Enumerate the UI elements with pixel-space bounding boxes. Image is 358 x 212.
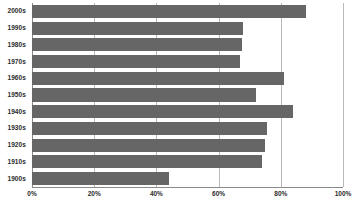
y-axis-label-1980s: 1980s xyxy=(7,41,26,48)
bar-series xyxy=(32,3,343,187)
y-axis-label-1950s: 1950s xyxy=(7,91,26,98)
bar-row xyxy=(32,5,343,18)
x-axis-label-60%: 60% xyxy=(212,190,225,197)
x-axis-line xyxy=(32,187,343,188)
bar-chart: 2000s1990s1980s1970s1960s1950s1940s1930s… xyxy=(0,0,358,212)
bar-1930s[interactable] xyxy=(32,122,267,135)
y-axis-label-1920s: 1920s xyxy=(7,141,26,148)
bar-row xyxy=(32,72,343,85)
x-axis-label-0%: 0% xyxy=(27,190,36,197)
bar-1910s[interactable] xyxy=(32,155,262,168)
bar-1950s[interactable] xyxy=(32,88,256,101)
bar-1970s[interactable] xyxy=(32,55,240,68)
plot-area xyxy=(32,3,343,187)
bar-row xyxy=(32,22,343,35)
bar-row xyxy=(32,172,343,185)
bar-row xyxy=(32,122,343,135)
x-axis-label-100%: 100% xyxy=(335,190,352,197)
bar-1900s[interactable] xyxy=(32,172,169,185)
bar-1920s[interactable] xyxy=(32,139,265,152)
bar-row xyxy=(32,105,343,118)
x-axis-labels: 0%20%40%60%80%100% xyxy=(0,190,358,204)
x-axis-label-40%: 40% xyxy=(150,190,163,197)
y-axis-label-1960s: 1960s xyxy=(7,74,26,81)
y-axis-label-1900s: 1900s xyxy=(7,175,26,182)
bar-row xyxy=(32,88,343,101)
y-axis-label-1910s: 1910s xyxy=(7,158,26,165)
bar-1940s[interactable] xyxy=(32,105,293,118)
x-axis-label-20%: 20% xyxy=(88,190,101,197)
bar-1980s[interactable] xyxy=(32,38,242,51)
x-axis-label-80%: 80% xyxy=(274,190,287,197)
bar-1990s[interactable] xyxy=(32,22,243,35)
y-axis-labels: 2000s1990s1980s1970s1960s1950s1940s1930s… xyxy=(0,3,30,187)
y-axis-label-1940s: 1940s xyxy=(7,108,26,115)
bar-1960s[interactable] xyxy=(32,72,284,85)
bar-row xyxy=(32,38,343,51)
y-axis-label-1990s: 1990s xyxy=(7,24,26,31)
y-axis-label-1970s: 1970s xyxy=(7,58,26,65)
y-axis-label-1930s: 1930s xyxy=(7,124,26,131)
bar-row xyxy=(32,139,343,152)
bar-2000s[interactable] xyxy=(32,5,306,18)
gridline-100% xyxy=(343,3,344,187)
bar-row xyxy=(32,155,343,168)
bar-row xyxy=(32,55,343,68)
y-axis-label-2000s: 2000s xyxy=(7,7,26,14)
